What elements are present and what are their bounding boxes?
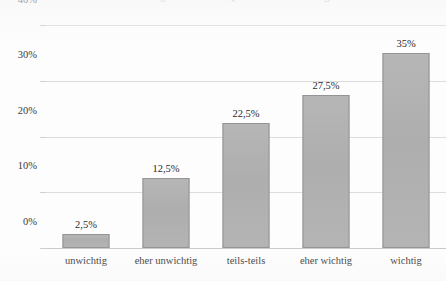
bar-value-label-wichtig: 35% [396, 38, 415, 49]
cut-off-title-text: Wie wichtig ist Ihnen die Qualitaet der … [0, 0, 446, 3]
y-tick-label-20: 20% [0, 106, 37, 117]
x-label-eher-unwichtig: eher unwichtig [126, 255, 206, 267]
bar-unwichtig[interactable] [63, 234, 110, 248]
bar-slot-teils-teils: 22,5% [206, 25, 286, 248]
bar-value-label-eher-wichtig: 27,5% [312, 80, 339, 91]
bar-slot-wichtig: 35% [366, 25, 446, 248]
bar-eher-unwichtig[interactable] [143, 178, 190, 248]
y-tick-label-10: 10% [0, 161, 37, 172]
x-axis-labels: unwichtig eher unwichtig teils-teils ehe… [46, 255, 446, 275]
plot-area: 2,5% 12,5% 22,5% 27,5% 35% [46, 25, 446, 248]
bar-value-label-teils-teils: 22,5% [232, 108, 259, 119]
tickmark-0 [40, 248, 46, 249]
bar-value-label-eher-unwichtig: 12,5% [152, 163, 179, 174]
bar-series: 2,5% 12,5% 22,5% 27,5% 35% [46, 25, 446, 248]
bar-value-label-unwichtig: 2,5% [75, 219, 97, 230]
bar-slot-eher-wichtig: 27,5% [286, 25, 366, 248]
y-tick-label-0: 0% [0, 217, 37, 228]
x-label-wichtig: wichtig [366, 255, 446, 267]
bar-teils-teils[interactable] [223, 123, 270, 248]
x-label-unwichtig: unwichtig [46, 255, 126, 267]
x-label-teils-teils: teils-teils [206, 255, 286, 267]
x-label-eher-wichtig: eher wichtig [286, 255, 366, 267]
bar-chart: 40% 30% 20% 10% 0% 2,5% 12,5% [0, 0, 446, 281]
bar-slot-unwichtig: 2,5% [46, 25, 126, 248]
y-tick-label-30: 30% [0, 50, 37, 61]
bar-wichtig[interactable] [383, 53, 430, 248]
bar-slot-eher-unwichtig: 12,5% [126, 25, 206, 248]
bar-eher-wichtig[interactable] [303, 95, 350, 248]
gridline-baseline-0 [46, 248, 446, 249]
